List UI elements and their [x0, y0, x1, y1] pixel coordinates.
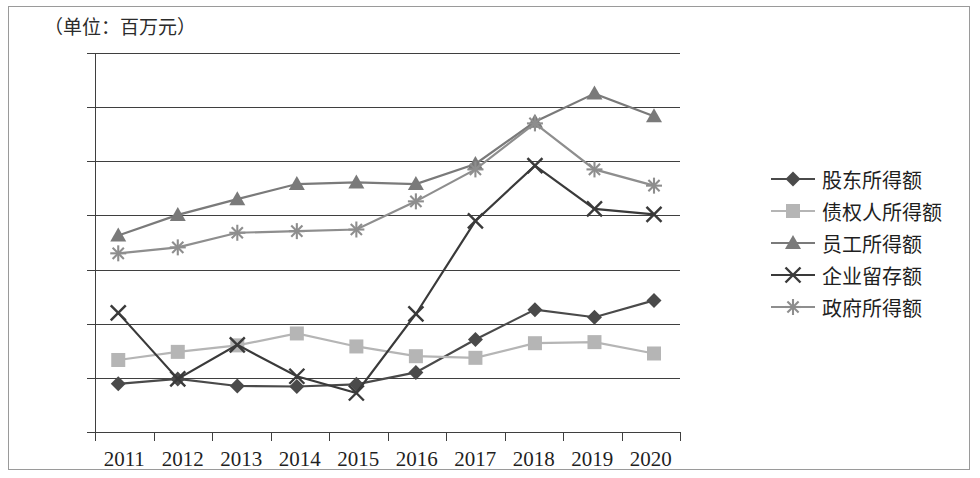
triangle-marker-icon [586, 86, 602, 100]
series-line [118, 123, 654, 253]
series-layer [95, 53, 680, 432]
square-marker-icon [290, 326, 304, 340]
legend-item-3[interactable]: 员工所得额 [770, 227, 960, 259]
x-tick-mark [505, 432, 506, 441]
asterisk-marker-icon [229, 225, 245, 241]
y-tick-mark [87, 432, 95, 433]
square-marker-icon [528, 336, 542, 350]
legend-item-label: 员工所得额 [816, 229, 922, 258]
y-tick-mark [87, 324, 95, 325]
x-tick-mark [329, 432, 330, 441]
x-tick-mark [271, 432, 272, 441]
square-marker-icon [786, 204, 800, 218]
y-tick-mark [87, 161, 95, 162]
x-tick-mark [563, 432, 564, 441]
x-tick-mark [680, 432, 681, 441]
cross-marker-icon [408, 306, 423, 321]
square-marker-icon [349, 339, 363, 353]
square-marker-icon [171, 345, 185, 359]
legend-item-label: 债权人所得额 [816, 197, 942, 226]
series-cross [111, 158, 662, 400]
x-tick-mark [622, 432, 623, 441]
series-asterisk [110, 115, 662, 261]
asterisk-marker-icon [785, 299, 801, 315]
y-tick-mark [87, 53, 95, 54]
asterisk-marker-icon [527, 115, 543, 131]
cross-marker-icon [111, 305, 126, 320]
x-tick-mark [95, 432, 96, 441]
square-marker-icon [111, 353, 125, 367]
asterisk-marker-icon [170, 239, 186, 255]
diamond-marker-icon [468, 332, 483, 347]
square-marker-icon [647, 346, 661, 360]
series-triangle [110, 86, 662, 242]
triangle-marker-icon [348, 174, 364, 188]
y-tick-mark [87, 107, 95, 108]
legend-item-1[interactable]: 股东所得额 [770, 163, 960, 195]
series-line [118, 333, 654, 360]
asterisk-marker-icon [646, 178, 662, 194]
series-square [111, 326, 661, 367]
x-tick-mark [212, 432, 213, 441]
diamond-marker-icon [111, 376, 126, 391]
square-marker-icon [468, 351, 482, 365]
chart-unit-title: （单位：百万元） [44, 12, 196, 39]
legend-item-2[interactable]: 债权人所得额 [770, 195, 960, 227]
asterisk-marker-icon [408, 193, 424, 209]
cross-marker-icon [527, 158, 542, 173]
chart-figure: （单位：百万元） 0100200300400500600700 20112012… [0, 0, 980, 478]
cross-marker-icon [468, 213, 483, 228]
x-tick-mark [388, 432, 389, 441]
chart-legend: 股东所得额债权人所得额员工所得额企业留存额政府所得额 [770, 163, 960, 323]
diamond-marker-icon [408, 365, 423, 380]
legend-item-label: 政府所得额 [816, 293, 922, 322]
asterisk-marker-icon [586, 161, 602, 177]
square-marker-icon [409, 349, 423, 363]
legend-item-5[interactable]: 政府所得额 [770, 291, 960, 323]
x-tick-mark [154, 432, 155, 441]
series-line [118, 166, 654, 393]
legend-item-4[interactable]: 企业留存额 [770, 259, 960, 291]
legend-item-label: 股东所得额 [816, 165, 922, 194]
plot-area: 0100200300400500600700 20112012201320142… [95, 53, 680, 432]
asterisk-marker-icon [348, 222, 364, 238]
legend-marker-sample [770, 200, 816, 222]
legend-marker-sample [770, 296, 816, 318]
legend-item-label: 企业留存额 [816, 261, 922, 290]
diamond-marker-icon [786, 172, 801, 187]
x-tick-mark [446, 432, 447, 441]
x-tick-label: 2020 [611, 447, 691, 472]
diamond-marker-icon [527, 302, 542, 317]
legend-marker-sample [770, 168, 816, 190]
asterisk-marker-icon [289, 223, 305, 239]
legend-marker-sample [770, 232, 816, 254]
y-tick-mark [87, 378, 95, 379]
asterisk-marker-icon [110, 245, 126, 261]
square-marker-icon [587, 335, 601, 349]
series-line [118, 94, 654, 236]
y-tick-mark [87, 215, 95, 216]
diamond-marker-icon [587, 310, 602, 325]
legend-marker-sample [770, 264, 816, 286]
diamond-marker-icon [647, 293, 662, 308]
y-tick-mark [87, 270, 95, 271]
diamond-marker-icon [230, 378, 245, 393]
